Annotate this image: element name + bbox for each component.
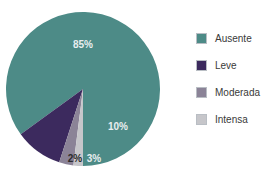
legend-item-intensa[interactable]: Intensa (196, 113, 269, 125)
legend-swatch-moderada (196, 87, 207, 98)
pie-chart-plot-area: 85%10%3%2% (0, 0, 190, 178)
pie-slice-label-ausente: 85% (73, 39, 93, 50)
pie-slice-label-leve: 10% (108, 121, 128, 132)
legend-item-ausente[interactable]: Ausente (196, 32, 269, 44)
chart-legend: Ausente Leve Moderada Intensa (196, 32, 269, 144)
legend-label-ausente: Ausente (215, 33, 252, 44)
legend-label-moderada: Moderada (215, 87, 260, 98)
legend-item-leve[interactable]: Leve (196, 59, 269, 71)
legend-swatch-intensa (196, 114, 207, 125)
pie-slice-label-intensa: 2% (68, 153, 83, 164)
legend-label-intensa: Intensa (215, 114, 248, 125)
legend-label-leve: Leve (215, 60, 237, 71)
pie-slices-group (6, 12, 160, 166)
legend-swatch-leve (196, 60, 207, 71)
pie-chart-svg: 85%10%3%2% (0, 0, 190, 178)
pie-slice-label-moderada: 3% (87, 153, 102, 164)
pie-chart-figure: 85%10%3%2% Ausente Leve Moderada Intensa (0, 0, 269, 178)
legend-swatch-ausente (196, 33, 207, 44)
legend-item-moderada[interactable]: Moderada (196, 86, 269, 98)
